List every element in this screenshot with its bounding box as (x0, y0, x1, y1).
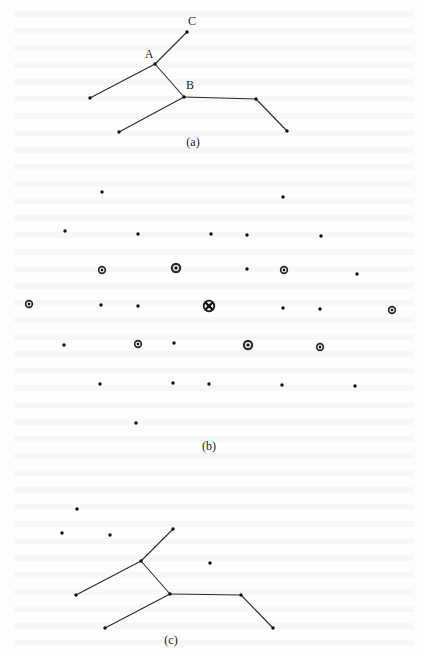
point-dot (281, 195, 284, 198)
tree-edge (184, 97, 256, 99)
point-dot (353, 384, 356, 387)
node-dot (271, 626, 274, 629)
tree-edge (155, 32, 187, 64)
node-label: A (145, 47, 154, 61)
node-dot (139, 559, 142, 562)
node-dot (168, 592, 171, 595)
node-dot (74, 593, 77, 596)
tree-edge (256, 99, 287, 131)
point-dot (209, 232, 212, 235)
node-dot (75, 507, 78, 510)
panel-caption: (c) (164, 633, 177, 647)
point-dot (136, 304, 139, 307)
point-dot (63, 229, 66, 232)
node-label: B (186, 78, 194, 92)
point-dot (280, 383, 283, 386)
node-dot (254, 97, 257, 100)
point-dot (99, 303, 102, 306)
node-dot (171, 527, 174, 530)
node-dot (108, 533, 111, 536)
tree-edge (241, 595, 273, 628)
point-dot (134, 421, 137, 424)
node-dot (153, 62, 156, 65)
point-dot (355, 272, 358, 275)
node-dot (103, 626, 106, 629)
point-dot (62, 343, 65, 346)
point-dot (207, 382, 210, 385)
panel-b-point-set: (b) (25, 190, 396, 453)
point-dot (245, 233, 248, 236)
tree-figure: CAB(a) (b) (c) (0, 0, 423, 653)
tree-edge (76, 561, 141, 595)
node-dot (208, 561, 211, 564)
node-dot (60, 531, 63, 534)
panel-caption: (b) (202, 439, 216, 453)
tree-edge (170, 594, 241, 595)
tree-edge (119, 97, 184, 132)
tree-edge (141, 529, 173, 561)
node-dot (285, 129, 288, 132)
point-dot (172, 341, 175, 344)
node-label: C (188, 14, 196, 28)
document-page: CAB(a) (b) (c) (0, 0, 423, 653)
node-dot (185, 30, 188, 33)
node-dot (117, 130, 120, 133)
panel-c-tree: (c) (60, 507, 274, 647)
tree-edge (90, 64, 155, 98)
node-dot (182, 95, 185, 98)
point-dot (98, 382, 101, 385)
point-dot (245, 267, 248, 270)
node-dot (88, 96, 91, 99)
point-dot (281, 306, 284, 309)
panel-caption: (a) (186, 135, 199, 149)
tree-edge (141, 561, 170, 594)
point-dot (100, 190, 103, 193)
point-dot (171, 381, 174, 384)
point-dot (318, 307, 321, 310)
tree-edge (105, 594, 170, 628)
point-dot (319, 234, 322, 237)
node-dot (239, 593, 242, 596)
point-dot (136, 232, 139, 235)
panel-a-tree: CAB(a) (88, 14, 288, 149)
tree-edge (155, 64, 184, 97)
